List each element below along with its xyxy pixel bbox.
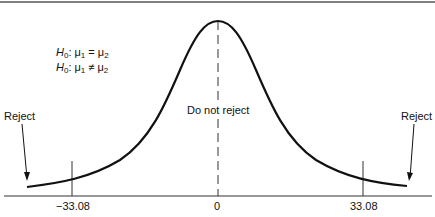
reject-left-label: Reject [4,111,35,122]
tick-label-neg: −33.08 [56,201,90,212]
do-not-reject-label: Do not reject [186,105,250,116]
arrow-right [410,124,414,178]
tick-label-zero: 0 [214,201,220,212]
arrow-left [22,124,27,178]
arrow-right-head [407,172,413,181]
arrow-left-head [24,172,30,181]
tick-label-pos: 33.08 [350,201,378,212]
reject-right-label: Reject [401,111,432,122]
alternative-hypothesis: H0: μ1 ≠ μ2 [56,60,108,78]
